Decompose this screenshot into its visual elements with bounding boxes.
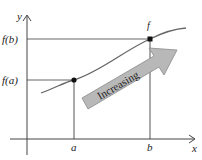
point-b — [148, 37, 153, 42]
a-tick-label: a — [71, 141, 77, 153]
increasing-arrow: Increasing — [82, 48, 177, 109]
fa-label: f(a) — [2, 74, 18, 87]
fb-label: f(b) — [2, 33, 18, 46]
point-a — [71, 77, 76, 82]
y-axis-label: y — [16, 10, 22, 22]
increasing-function-diagram: Increasing y x f(b) f(a) a b f — [0, 0, 202, 160]
b-tick-label: b — [147, 141, 153, 153]
arrow-label: Increasing — [95, 68, 141, 102]
x-axis-label: x — [191, 142, 197, 154]
curve-label: f — [147, 20, 151, 31]
diagram-canvas: Increasing y x f(b) f(a) a b f — [0, 0, 202, 160]
